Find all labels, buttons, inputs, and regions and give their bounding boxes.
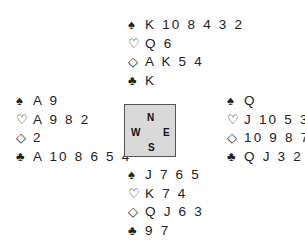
west-hand: ♠A 9 ♡A 9 8 2 ◇2 ♣A 10 8 6 5 4 bbox=[16, 92, 131, 166]
diamond-icon: ◇ bbox=[128, 53, 145, 72]
south-clubs: ♣9 7 bbox=[128, 222, 204, 241]
compass-box: N W E S bbox=[124, 104, 176, 157]
spade-icon: ♠ bbox=[227, 92, 244, 111]
north-clubs: ♣K bbox=[128, 72, 244, 91]
spade-icon: ♠ bbox=[128, 16, 145, 35]
south-hand: ♠J 7 6 5 ♡K 7 4 ◇Q J 6 3 ♣9 7 bbox=[128, 166, 204, 240]
west-clubs: ♣A 10 8 6 5 4 bbox=[16, 148, 131, 167]
east-clubs: ♣Q J 3 2 bbox=[227, 148, 305, 167]
east-diamonds: ◇10 9 8 7 bbox=[227, 129, 305, 148]
compass-south-label: S bbox=[148, 142, 155, 153]
east-spades: ♠Q bbox=[227, 92, 305, 111]
west-spades: ♠A 9 bbox=[16, 92, 131, 111]
north-spades: ♠K 10 8 4 3 2 bbox=[128, 16, 244, 35]
west-hearts: ♡A 9 8 2 bbox=[16, 111, 131, 130]
spade-icon: ♠ bbox=[16, 92, 33, 111]
diamond-icon: ◇ bbox=[227, 129, 244, 148]
north-diamonds: ◇A K 5 4 bbox=[128, 53, 244, 72]
spade-icon: ♠ bbox=[128, 166, 145, 185]
compass-west-label: W bbox=[131, 127, 140, 138]
south-hearts: ♡K 7 4 bbox=[128, 185, 204, 204]
north-hearts: ♡Q 6 bbox=[128, 35, 244, 54]
west-diamonds: ◇2 bbox=[16, 129, 131, 148]
north-hand: ♠K 10 8 4 3 2 ♡Q 6 ◇A K 5 4 ♣K bbox=[128, 16, 244, 90]
compass-east-label: E bbox=[163, 127, 170, 138]
diamond-icon: ◇ bbox=[16, 129, 33, 148]
heart-icon: ♡ bbox=[227, 111, 244, 130]
club-icon: ♣ bbox=[128, 222, 145, 241]
club-icon: ♣ bbox=[227, 148, 244, 167]
club-icon: ♣ bbox=[128, 72, 145, 91]
compass-north-label: N bbox=[147, 112, 154, 123]
south-spades: ♠J 7 6 5 bbox=[128, 166, 204, 185]
east-hearts: ♡J 10 5 3 bbox=[227, 111, 305, 130]
heart-icon: ♡ bbox=[128, 185, 145, 204]
heart-icon: ♡ bbox=[128, 35, 145, 54]
heart-icon: ♡ bbox=[16, 111, 33, 130]
club-icon: ♣ bbox=[16, 148, 33, 167]
east-hand: ♠Q ♡J 10 5 3 ◇10 9 8 7 ♣Q J 3 2 bbox=[227, 92, 305, 166]
diamond-icon: ◇ bbox=[128, 203, 145, 222]
south-diamonds: ◇Q J 6 3 bbox=[128, 203, 204, 222]
